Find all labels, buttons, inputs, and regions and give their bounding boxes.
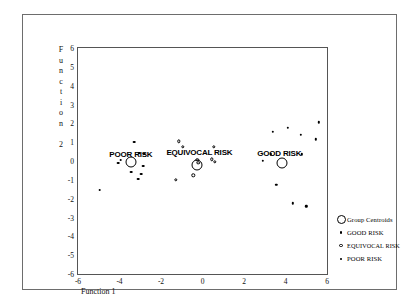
legend-label: GOOD RISK — [347, 229, 384, 236]
x-axis-tick-label: 4 — [284, 277, 288, 286]
legend-item-group-centroids: Group Centroids — [335, 213, 417, 226]
x-axis-tick-label: 2 — [242, 277, 246, 286]
legend-label: Group Centroids — [347, 216, 393, 223]
y-axis-tick-label: 5 — [70, 62, 74, 71]
data-point-good — [275, 183, 277, 185]
legend-label: EQUIVOCAL RISK — [347, 242, 400, 249]
x-axis-tick-label: -6 — [75, 277, 81, 286]
y-axis-tick-label: -6 — [68, 270, 74, 279]
group-annotation-label: GOOD RISK — [257, 149, 301, 158]
legend: Group Centroids GOOD RISK EQUIVOCAL RISK… — [335, 213, 417, 265]
y-axis-title-char: n — [55, 66, 67, 77]
data-point-poor — [137, 178, 140, 180]
large-open-circle-icon — [335, 215, 347, 224]
y-axis-tick-label: -1 — [68, 175, 74, 184]
legend-item-poor-risk: POOR RISK — [335, 252, 417, 265]
data-point-poor — [133, 141, 136, 143]
y-axis-tick-label: 1 — [70, 138, 74, 147]
data-point-good — [300, 133, 302, 135]
figure-outer-border: F u n c t i o n 2 6543210-1-2-3-4-5-6-6-… — [22, 14, 397, 290]
legend-item-equivocal-risk: EQUIVOCAL RISK — [335, 239, 417, 252]
data-point-equi — [174, 178, 177, 181]
group-centroid-marker — [192, 159, 203, 170]
data-point-poor — [142, 165, 145, 167]
data-point-good — [314, 138, 316, 140]
y-axis-title-char: u — [55, 56, 67, 67]
x-axis-title: Function 1 — [81, 287, 115, 296]
y-axis-title-char: 2 — [55, 140, 67, 151]
y-axis-title-char: i — [55, 98, 67, 109]
y-axis-title-char: c — [55, 77, 67, 88]
filled-dot-icon — [335, 231, 347, 233]
x-axis-tick-label: -4 — [116, 277, 122, 286]
group-annotation-label: POOR RISK — [109, 150, 152, 159]
data-point-equi — [191, 173, 194, 176]
y-axis-title: F u n c t i o n 2 — [55, 45, 67, 150]
y-axis-title-char: o — [55, 108, 67, 119]
plot-area: 6543210-1-2-3-4-5-6-6-4-20246POOR RISKEQ… — [77, 47, 328, 275]
legend-label: POOR RISK — [347, 255, 382, 262]
open-circle-icon — [335, 244, 347, 248]
y-axis-tick-label: 0 — [70, 157, 74, 166]
data-point-poor — [119, 159, 122, 161]
y-axis-tick-label: 6 — [70, 44, 74, 53]
data-point-good — [261, 160, 263, 162]
y-axis-tick-label: -3 — [68, 213, 74, 222]
x-axis-tick-label: 0 — [201, 277, 205, 286]
y-axis-title-char: n — [55, 119, 67, 130]
data-point-poor — [140, 173, 143, 175]
data-point-good — [286, 127, 288, 129]
y-axis-title-char — [55, 129, 67, 140]
x-axis-tick-label: -2 — [158, 277, 164, 286]
y-axis-tick-label: -4 — [68, 232, 74, 241]
y-axis-title-char: F — [55, 45, 67, 56]
legend-item-good-risk: GOOD RISK — [335, 226, 417, 239]
y-axis-tick-label: -5 — [68, 251, 74, 260]
data-point-good — [305, 205, 307, 207]
y-axis-title-char: t — [55, 87, 67, 98]
data-point-poor — [117, 162, 120, 164]
data-point-equi — [177, 140, 180, 143]
y-axis-tick-label: 3 — [70, 100, 74, 109]
data-point-good — [317, 121, 319, 123]
y-axis-tick-label: 2 — [70, 119, 74, 128]
data-point-good — [292, 202, 294, 204]
data-point-equi — [213, 160, 216, 163]
group-annotation-label: EQUIVOCAL RISK — [166, 147, 232, 156]
x-axis-tick-label: 6 — [325, 277, 329, 286]
data-point-good — [272, 131, 274, 133]
data-point-poor — [130, 171, 133, 173]
y-axis-tick-label: 4 — [70, 81, 74, 90]
data-point-poor — [98, 189, 101, 191]
dash-dot-icon — [335, 258, 347, 260]
group-centroid-marker — [277, 157, 288, 168]
y-axis-tick-label: -2 — [68, 194, 74, 203]
